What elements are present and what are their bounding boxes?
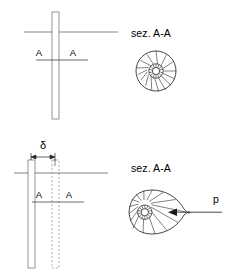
bottom-panel: δ A A sez. A-A [14,139,222,268]
delta-label: δ [40,139,46,151]
section-marker-A-bottom-left: A [36,189,43,200]
cross-section-circle [136,51,176,92]
pile-bar-original [28,160,35,268]
section-core-circle [149,64,163,78]
figure-root: A A sez. A-A [0,0,230,280]
delta-arrow-right [50,155,55,159]
section-label-bottom: sez. A-A [131,162,171,174]
top-panel: A A sez. A-A [24,12,176,119]
section-marker-A-bottom-right: A [66,189,73,200]
load-label-p: p [213,193,219,205]
engineering-diagram: A A sez. A-A [0,0,230,280]
section-label-top: sez. A-A [131,27,171,39]
section-marker-A-top-left: A [36,47,43,58]
pile-bar-displaced [52,160,59,268]
delta-arrow-left [31,155,36,159]
section-core-teardrop [138,205,152,219]
pile-bar-top [52,12,59,119]
section-marker-A-top-right: A [70,47,77,58]
